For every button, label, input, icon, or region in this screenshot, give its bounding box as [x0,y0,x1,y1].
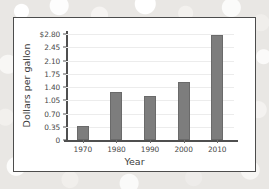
x-axis-tick-mark [150,140,151,143]
y-axis-tick-label: 1.40 [44,83,60,92]
y-axis-tick-mark [63,87,66,88]
y-axis-tick-label: 2.10 [44,56,60,65]
x-axis-tick-label: 1990 [141,145,159,154]
bar [77,126,89,140]
x-axis-tick-mark [83,140,84,143]
chart-figure-panel: Dollars per gallon 00.350.701.051.401.75… [13,17,256,172]
bar [178,82,190,140]
y-axis-tick-mark [63,47,66,48]
x-axis-title-label: Year [124,156,144,167]
x-axis-tick-mark [116,140,117,143]
page-background: Dollars per gallon 00.350.701.051.401.75… [0,0,269,189]
y-axis-tick-mark [63,126,66,127]
bar [211,35,223,140]
y-axis-tick-mark [63,60,66,61]
gridline [66,87,234,88]
y-axis-tick-mark [63,73,66,74]
y-axis-tick-label: $2.80 [40,30,60,39]
x-axis-line [64,140,238,142]
y-axis-tick-label: 0.70 [44,109,60,118]
x-axis-tick-label: 2010 [208,145,226,154]
x-axis-tick-label: 2000 [174,145,192,154]
gridline [66,47,234,48]
y-axis-tick-label: 0.35 [44,122,60,131]
gridline [66,61,234,62]
y-axis-title: Dollars per gallon [20,18,34,152]
plot-area: 00.350.701.051.401.752.102.45$2.80 [66,34,234,140]
y-axis-tick-mark [63,113,66,114]
y-axis-tick-label: 2.45 [44,43,60,52]
x-axis-tick-mark [217,140,218,143]
x-axis-tick-mark [184,140,185,143]
y-axis-tick-mark [63,140,66,141]
y-axis-tick-mark [63,34,66,35]
y-axis-tick-label: 0 [55,136,60,145]
y-axis-tick-label: 1.75 [44,69,60,78]
bar [110,92,122,140]
bar [144,96,156,140]
gridline [66,34,234,35]
x-axis-title: Year [14,156,255,167]
y-axis-tick-label: 1.05 [44,96,60,105]
gridline [66,74,234,75]
y-axis-tick-mark [63,100,66,101]
x-axis-tick-label: 1970 [74,145,92,154]
y-axis-title-label: Dollars per gallon [22,43,33,127]
x-axis-tick-label: 1980 [107,145,125,154]
